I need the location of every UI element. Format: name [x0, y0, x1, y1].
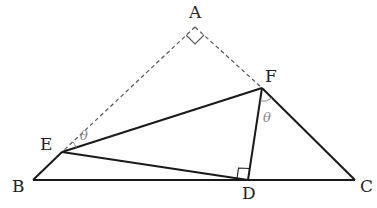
segment-FC: [262, 88, 355, 180]
label-C: C: [360, 176, 373, 196]
segment-FD: [248, 88, 262, 180]
segment-AF: [195, 27, 262, 88]
label-D: D: [242, 183, 256, 203]
angle-arc-E: [73, 142, 76, 148]
label-F: F: [265, 66, 277, 86]
label-B: B: [12, 176, 25, 196]
geometry-diagram: A B C D E F θ θ: [0, 0, 377, 208]
segment-BE: [33, 152, 62, 180]
segment-ED: [62, 152, 248, 180]
segment-EF: [62, 88, 262, 152]
right-angle-mark-A: [186, 35, 204, 44]
theta-label-E: θ: [80, 128, 88, 143]
label-A: A: [188, 2, 202, 22]
angle-arc-F: [260, 98, 272, 101]
label-E: E: [40, 134, 52, 154]
theta-label-F: θ: [263, 110, 271, 125]
